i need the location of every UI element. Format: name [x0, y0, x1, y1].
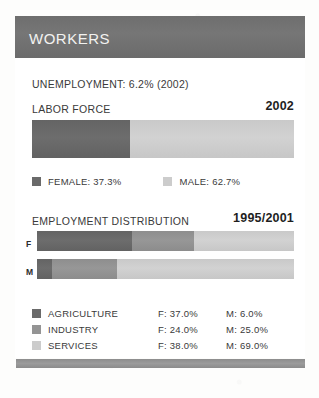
legend-name-agriculture: AGRICULTURE [32, 308, 158, 319]
page-background: Workers UNEMPLOYMENT: 6.2% (2002) LABOR … [0, 0, 319, 398]
legend-label-agriculture: AGRICULTURE [48, 308, 118, 319]
legend-item-female: FEMALE: 37.3% [32, 176, 121, 187]
employment-bar-male [37, 259, 294, 279]
swatch-agriculture-icon [32, 309, 41, 318]
labor-force-segment-male [130, 120, 294, 158]
labor-force-bar [32, 120, 294, 158]
legend-male-services: M: 69.0% [226, 340, 286, 351]
card-bottom-bar [16, 359, 305, 368]
card-body: UNEMPLOYMENT: 6.2% (2002) LABOR FORCE 20… [15, 58, 305, 358]
employment-bar-female [37, 231, 294, 251]
legend-name-industry: INDUSTRY [32, 324, 158, 335]
labor-force-heading: LABOR FORCE [32, 103, 111, 115]
male-segment-agriculture [37, 259, 52, 279]
legend-female-agriculture: F: 37.0% [158, 308, 226, 319]
female-segment-agriculture [37, 231, 132, 251]
female-segment-services [194, 231, 294, 251]
male-segment-services [117, 259, 294, 279]
legend-male-industry: M: 25.0% [226, 324, 286, 335]
labor-force-legend: FEMALE: 37.3% MALE: 62.7% [32, 176, 240, 187]
swatch-female-icon [32, 177, 41, 186]
legend-name-services: SERVICES [32, 340, 158, 351]
legend-female-services: F: 38.0% [158, 340, 226, 351]
male-segment-industry [52, 259, 116, 279]
swatch-male-icon [163, 177, 172, 186]
legend-label-services: SERVICES [48, 340, 98, 351]
swatch-services-icon [32, 341, 41, 350]
female-segment-industry [132, 231, 194, 251]
legend-female-industry: F: 24.0% [158, 324, 226, 335]
labor-force-year: 2002 [265, 99, 294, 113]
legend-row-services: SERVICES F: 38.0% M: 69.0% [32, 337, 294, 353]
swatch-industry-icon [32, 325, 41, 334]
workers-card: Workers UNEMPLOYMENT: 6.2% (2002) LABOR … [15, 16, 305, 372]
legend-label-industry: INDUSTRY [48, 324, 98, 335]
legend-row-industry: INDUSTRY F: 24.0% M: 25.0% [32, 321, 294, 337]
employment-distribution-heading: EMPLOYMENT DISTRIBUTION [32, 215, 189, 227]
row-label-male: M [26, 267, 33, 277]
employment-distribution-year: 1995/2001 [233, 211, 294, 225]
legend-label-female: FEMALE: 37.3% [48, 176, 121, 187]
employment-distribution-legend: AGRICULTURE F: 37.0% M: 6.0% INDUSTRY F:… [32, 305, 294, 353]
unemployment-stat: UNEMPLOYMENT: 6.2% (2002) [32, 78, 189, 90]
row-label-female: F [26, 239, 31, 249]
page-title: Workers [29, 23, 110, 51]
legend-row-agriculture: AGRICULTURE F: 37.0% M: 6.0% [32, 305, 294, 321]
legend-male-agriculture: M: 6.0% [226, 308, 286, 319]
legend-item-male: MALE: 62.7% [163, 176, 240, 187]
card-header: Workers [15, 16, 305, 58]
legend-label-male: MALE: 62.7% [179, 176, 240, 187]
labor-force-segment-female [32, 120, 130, 158]
